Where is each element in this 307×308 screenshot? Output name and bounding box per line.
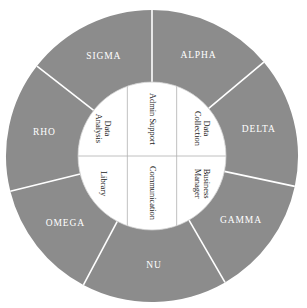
wheel-svg: ALPHADELTAGAMMANUOMEGARHOSIGMA DataAnaly… bbox=[0, 0, 307, 308]
wheel-diagram: ALPHADELTAGAMMANUOMEGARHOSIGMA DataAnaly… bbox=[0, 0, 307, 308]
